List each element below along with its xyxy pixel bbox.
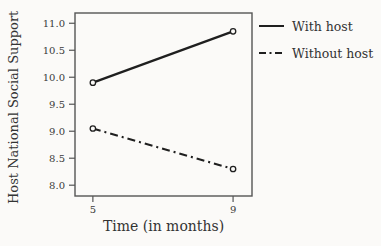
y-tick-label: 9.0 xyxy=(49,126,65,137)
y-tick-label: 10.5 xyxy=(43,45,65,56)
plot-frame xyxy=(75,13,252,196)
legend-label-with-host: With host xyxy=(292,19,353,34)
x-axis-title: Time (in months) xyxy=(75,218,252,234)
y-tick-label: 11.0 xyxy=(43,18,65,29)
solid-line-swatch xyxy=(258,22,285,30)
y-axis-title: Host National Social Support xyxy=(6,18,21,204)
legend: With hostWithout host xyxy=(258,18,373,61)
y-tick-label: 8.5 xyxy=(49,153,65,164)
x-tick-label: 9 xyxy=(230,204,236,215)
x-tick-label: 5 xyxy=(90,204,96,215)
y-tick-label: 8.0 xyxy=(49,180,65,191)
series-line-with-host xyxy=(93,31,233,82)
legend-item-with-host: With host xyxy=(258,18,373,34)
y-tick-label: 10.0 xyxy=(43,72,65,83)
legend-item-without-host: Without host xyxy=(258,45,373,61)
series-line-without-host xyxy=(93,129,233,169)
data-point-marker-without-host xyxy=(230,166,235,171)
data-point-marker-with-host xyxy=(230,29,235,34)
data-point-marker-with-host xyxy=(90,80,95,85)
y-tick-label: 9.5 xyxy=(49,99,65,110)
data-point-marker-without-host xyxy=(90,126,95,131)
dash-dot-line-swatch xyxy=(258,49,285,57)
legend-label-without-host: Without host xyxy=(292,46,373,61)
